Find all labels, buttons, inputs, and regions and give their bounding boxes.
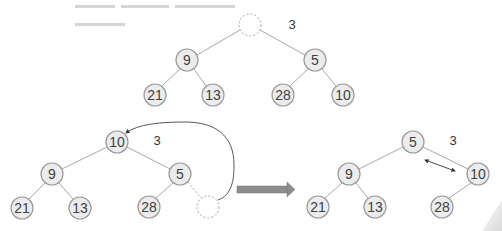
heap-node: 21 bbox=[144, 84, 166, 106]
heap-node: 9 bbox=[338, 163, 360, 185]
edge bbox=[29, 183, 45, 199]
bottom-right-tree: 3 5 9 10 21 13 28 bbox=[307, 131, 489, 218]
dashed-edge bbox=[188, 182, 201, 198]
removed-value-label: 3 bbox=[153, 133, 160, 148]
heap-node: 10 bbox=[467, 163, 489, 185]
transition-arrow-icon bbox=[237, 182, 295, 197]
svg-text:13: 13 bbox=[205, 87, 221, 103]
heap-node: 13 bbox=[364, 196, 386, 218]
heap-node: 28 bbox=[431, 196, 453, 218]
heap-node: 9 bbox=[41, 163, 63, 185]
edge bbox=[325, 183, 342, 198]
top-tree: 3 9 5 21 13 28 10 bbox=[144, 14, 354, 106]
svg-text:9: 9 bbox=[183, 52, 191, 68]
diagram-svg: 3 9 5 21 13 28 10 3 10 9 5 21 13 28 bbox=[0, 0, 502, 231]
heap-node: 13 bbox=[202, 84, 224, 106]
edge bbox=[127, 147, 170, 169]
svg-text:5: 5 bbox=[176, 166, 184, 182]
heap-node: 28 bbox=[272, 84, 294, 106]
edge bbox=[449, 183, 471, 198]
edge bbox=[290, 69, 308, 86]
svg-text:9: 9 bbox=[48, 166, 56, 182]
removed-value-label: 3 bbox=[449, 133, 456, 148]
svg-text:21: 21 bbox=[147, 87, 163, 103]
svg-text:28: 28 bbox=[275, 87, 291, 103]
heap-node: 21 bbox=[307, 196, 329, 218]
svg-text:21: 21 bbox=[14, 200, 30, 216]
page-curl-decoration bbox=[482, 200, 502, 231]
swap-arrow bbox=[425, 160, 455, 171]
empty-last-slot bbox=[197, 196, 219, 218]
svg-text:10: 10 bbox=[335, 87, 351, 103]
svg-text:5: 5 bbox=[409, 134, 417, 150]
heap-node: 10 bbox=[332, 84, 354, 106]
heap-node: 5 bbox=[402, 131, 424, 153]
edge bbox=[62, 147, 107, 169]
edge bbox=[194, 69, 206, 86]
removed-value-label: 3 bbox=[288, 17, 295, 32]
svg-text:13: 13 bbox=[367, 199, 383, 215]
svg-text:28: 28 bbox=[434, 199, 450, 215]
bottom-left-tree: 3 10 9 5 21 13 28 bbox=[11, 122, 234, 219]
svg-text:10: 10 bbox=[470, 166, 486, 182]
heap-node: 13 bbox=[69, 197, 91, 219]
svg-text:13: 13 bbox=[72, 200, 88, 216]
edge bbox=[197, 30, 240, 55]
edge bbox=[359, 147, 403, 169]
edge bbox=[423, 147, 468, 169]
heap-node: 21 bbox=[11, 197, 33, 219]
heap-node: 5 bbox=[169, 163, 191, 185]
heap-node: 5 bbox=[304, 49, 326, 71]
heap-node: 9 bbox=[176, 49, 198, 71]
heap-node: 10 bbox=[106, 131, 128, 153]
heap-node: 28 bbox=[138, 196, 160, 218]
svg-text:10: 10 bbox=[109, 134, 125, 150]
heap-deletion-diagram: 3 9 5 21 13 28 10 3 10 9 5 21 13 28 bbox=[0, 0, 502, 231]
svg-text:28: 28 bbox=[141, 199, 157, 215]
svg-text:9: 9 bbox=[345, 166, 353, 182]
edge bbox=[260, 30, 305, 55]
empty-root-slot bbox=[239, 14, 261, 36]
svg-text:21: 21 bbox=[310, 199, 326, 215]
svg-text:5: 5 bbox=[311, 52, 319, 68]
edge bbox=[59, 183, 73, 199]
edge bbox=[356, 183, 368, 198]
edge bbox=[156, 183, 173, 198]
edge bbox=[162, 69, 180, 86]
move-to-root-arrow bbox=[126, 122, 234, 200]
edge bbox=[322, 69, 336, 86]
